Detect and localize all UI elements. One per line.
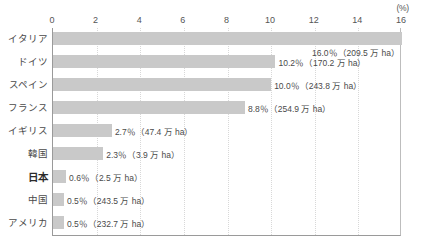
bar-rows: イタリア16.0％（209.5 万 ha）ドイツ10.2％（170.2 万 ha…: [0, 28, 437, 236]
bar-row: フランス8.8％（254.9 万 ha）: [0, 99, 437, 122]
bar-row: イタリア16.0％（209.5 万 ha）: [0, 30, 437, 53]
category-label-6: 日本: [0, 171, 48, 183]
bar-row: スペイン10.0％（243.8 万 ha）: [0, 76, 437, 99]
category-label-1: ドイツ: [0, 56, 48, 68]
x-tick-label-2: 2: [93, 15, 98, 25]
category-label-2: スペイン: [0, 79, 48, 91]
bar-7: [53, 193, 64, 206]
bar-4: [53, 124, 112, 137]
bar-row: 中国0.5％（243.5 万 ha）: [0, 191, 437, 214]
value-label-4: 2.7％（47.4 万 ha）: [115, 125, 194, 137]
category-label-8: アメリカ: [0, 217, 48, 229]
bar-row: 日本0.6％（2.5 万 ha）: [0, 168, 437, 191]
value-label-6: 0.6％（2.5 万 ha）: [69, 171, 143, 183]
value-label-8: 0.5％（232.7 万 ha）: [67, 217, 150, 229]
category-label-5: 韓国: [0, 148, 48, 160]
x-tick-label-8: 8: [224, 15, 229, 25]
x-tick-label-0: 0: [49, 15, 54, 25]
bar-2: [53, 78, 271, 91]
category-label-4: イギリス: [0, 125, 48, 137]
category-label-0: イタリア: [0, 33, 48, 45]
axis-unit-label: (%): [396, 3, 409, 13]
category-label-7: 中国: [0, 194, 48, 206]
x-tick-label-4: 4: [137, 15, 142, 25]
bar-chart: (%) 0246810121416 イタリア16.0％（209.5 万 ha）ド…: [0, 0, 437, 250]
bar-1: [53, 55, 275, 68]
x-axis-tick-labels: 0246810121416: [0, 15, 437, 27]
bar-row: ドイツ10.2％（170.2 万 ha）: [0, 53, 437, 76]
value-label-2: 10.0％（243.8 万 ha）: [274, 79, 362, 91]
x-tick-label-6: 6: [180, 15, 185, 25]
bar-8: [53, 216, 64, 229]
x-tick-label-14: 14: [352, 15, 362, 25]
bar-row: アメリカ0.5％（232.7 万 ha）: [0, 214, 437, 237]
value-label-5: 2.3％（3.9 万 ha）: [106, 148, 180, 160]
bar-row: イギリス2.7％（47.4 万 ha）: [0, 122, 437, 145]
bar-5: [53, 147, 103, 160]
bar-0: [53, 32, 402, 45]
bar-row: 韓国2.3％（3.9 万 ha）: [0, 145, 437, 168]
bar-6: [53, 170, 66, 183]
value-label-7: 0.5％（243.5 万 ha）: [67, 194, 150, 206]
bar-3: [53, 101, 245, 114]
x-tick-label-16: 16: [396, 15, 406, 25]
x-tick-label-10: 10: [265, 15, 275, 25]
value-label-1: 10.2％（170.2 万 ha）: [278, 56, 366, 68]
category-label-3: フランス: [0, 102, 48, 114]
x-tick-label-12: 12: [309, 15, 319, 25]
value-label-3: 8.8％（254.9 万 ha）: [248, 102, 331, 114]
